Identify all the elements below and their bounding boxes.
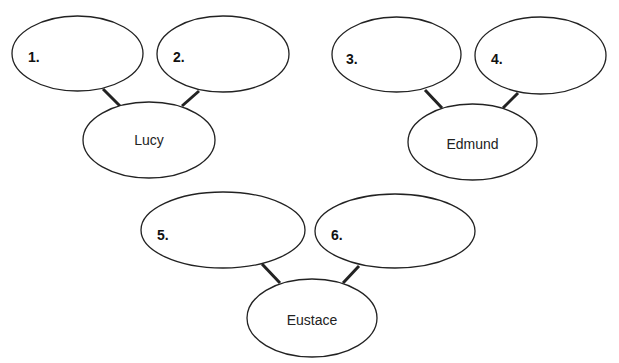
connector-2-lucy xyxy=(182,91,199,106)
child-name-lucy: Lucy xyxy=(134,132,164,148)
parent-node-1[interactable]: 1. xyxy=(12,16,143,91)
group-eustace: 5. 6. Eustace xyxy=(141,192,475,357)
parent-node-4[interactable]: 4. xyxy=(475,17,606,94)
child-node-edmund: Edmund xyxy=(408,104,537,180)
parent-label-1: 1. xyxy=(28,49,40,65)
parent-label-5: 5. xyxy=(157,227,169,243)
parent-label-3: 3. xyxy=(346,51,358,67)
parent-node-3[interactable]: 3. xyxy=(332,17,461,92)
parent-label-6: 6. xyxy=(331,227,343,243)
connector-1-lucy xyxy=(103,89,120,106)
connector-6-eustace xyxy=(343,266,359,283)
group-edmund: 3. 4. Edmund xyxy=(332,17,606,180)
child-node-lucy: Lucy xyxy=(83,102,215,178)
parent-node-2[interactable]: 2. xyxy=(157,16,289,92)
connector-4-edmund xyxy=(503,93,518,108)
child-name-edmund: Edmund xyxy=(446,136,498,152)
parent-label-2: 2. xyxy=(173,49,185,65)
connector-3-edmund xyxy=(425,90,442,108)
connector-5-eustace xyxy=(262,264,280,283)
parent-node-5[interactable]: 5. xyxy=(141,192,305,268)
group-lucy: 1. 2. Lucy xyxy=(12,16,289,178)
child-name-eustace: Eustace xyxy=(287,312,338,328)
child-node-eustace: Eustace xyxy=(247,279,377,357)
parent-node-6[interactable]: 6. xyxy=(315,194,475,268)
parent-label-4: 4. xyxy=(491,51,503,67)
family-tree-diagram: 1. 2. Lucy 3. 4. Edmund xyxy=(0,0,619,363)
